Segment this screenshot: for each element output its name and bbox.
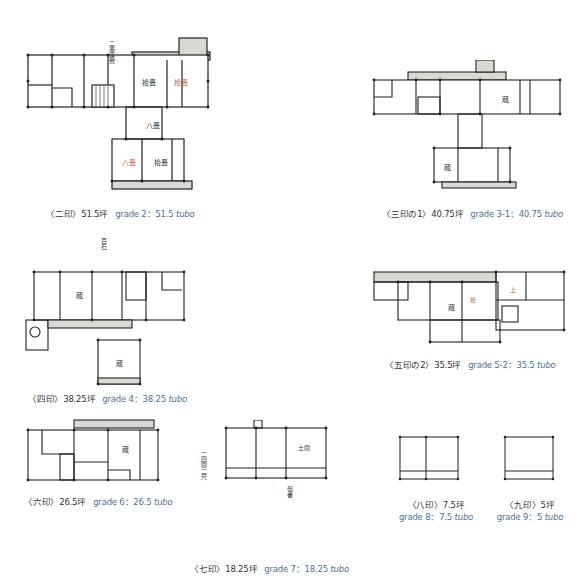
floor-plan-grade5-2: 蔵 上 拾 xyxy=(370,262,570,357)
floor-plan-grade9 xyxy=(503,433,558,483)
svg-text:蔵: 蔵 xyxy=(116,359,123,368)
caption-grade2: 〈二印〉51.5坪grade 2：51.5 tubo xyxy=(46,207,195,219)
svg-text:蔵: 蔵 xyxy=(76,291,83,300)
caption-jp: 〈二印〉51.5坪 xyxy=(46,209,108,219)
caption-grade5-2: 〈五印の2〉35.5坪grade 5-2：35.5 tubo xyxy=(385,358,556,370)
caption-jp: 〈五印の2〉35.5坪 xyxy=(385,360,461,370)
floor-plan-grade7: 土間 一四間二尺 但書 xyxy=(190,420,365,555)
caption-grade7: 〈七印〉18.25坪grade 7：18.25 tubo xyxy=(190,562,349,574)
svg-text:拾: 拾 xyxy=(470,296,476,304)
floor-plan-grade3-1: 蔵 蔵 xyxy=(368,60,578,195)
caption-en: grade 4：38.25 tubo xyxy=(102,394,187,404)
caption-jp: 〈四印〉38.25坪 xyxy=(28,394,95,404)
caption-en: grade 9：5 tubo xyxy=(490,510,570,522)
caption-grade3-1: 〈三印の1〉40.75坪grade 3-1：40.75 tubo xyxy=(382,207,563,219)
svg-text:八畳: 八畳 xyxy=(122,159,136,167)
caption-jp: 〈八印〉7.5坪 xyxy=(408,500,465,510)
svg-text:蔵: 蔵 xyxy=(448,303,455,312)
svg-text:土間: 土間 xyxy=(298,444,310,452)
svg-text:八畳: 八畳 xyxy=(146,122,160,130)
caption-grade4: 〈四印〉38.25坪grade 4：38.25 tubo xyxy=(28,392,187,404)
floor-plan-grade4: 蔵 蔵 百石 xyxy=(22,232,192,392)
caption-jp: 〈七印〉18.25坪 xyxy=(190,564,257,574)
svg-text:蔵: 蔵 xyxy=(444,163,451,172)
caption-en: grade 6：26.5 tubo xyxy=(93,497,172,507)
caption-jp: 〈三印の1〉40.75坪 xyxy=(382,209,463,219)
caption-en: grade 2：51.5 tubo xyxy=(115,209,194,219)
svg-text:拾畳: 拾畳 xyxy=(154,158,168,167)
floor-plan-grade8 xyxy=(398,433,468,483)
caption-en: grade 3-1：40.75 tubo xyxy=(470,209,563,219)
svg-text:但書: 但書 xyxy=(287,485,294,499)
svg-text:上: 上 xyxy=(510,286,516,293)
svg-text:蔵: 蔵 xyxy=(502,95,509,104)
caption-grade9: 〈九印〉5坪grade 9：5 tubo xyxy=(490,498,570,522)
svg-text:拾畳: 拾畳 xyxy=(174,78,188,87)
caption-grade6: 〈六印〉26.5坪grade 6：26.5 tubo xyxy=(24,495,173,507)
caption-en: grade 8：7.5 tubo xyxy=(396,510,476,522)
caption-jp: 〈九印〉5坪 xyxy=(505,500,554,510)
svg-text:二番座敷: 二番座敷 xyxy=(109,40,116,65)
floor-plan-grade6: 蔵 xyxy=(22,418,167,488)
svg-text:蔵: 蔵 xyxy=(122,445,129,454)
caption-jp: 〈六印〉26.5坪 xyxy=(24,497,86,507)
caption-grade8: 〈八印〉7.5坪grade 8：7.5 tubo xyxy=(396,498,476,522)
floor-plan-grade2: 拾畳 拾畳 八畳 八畳 拾畳 二番座敷 xyxy=(24,30,214,200)
svg-text:一四間二尺: 一四間二尺 xyxy=(201,450,208,481)
svg-text:百石: 百石 xyxy=(101,238,108,251)
caption-en: grade 7：18.25 tubo xyxy=(264,564,349,574)
room-label: 拾畳 xyxy=(142,78,156,87)
caption-en: grade 5-2：35.5 tubo xyxy=(468,360,555,370)
